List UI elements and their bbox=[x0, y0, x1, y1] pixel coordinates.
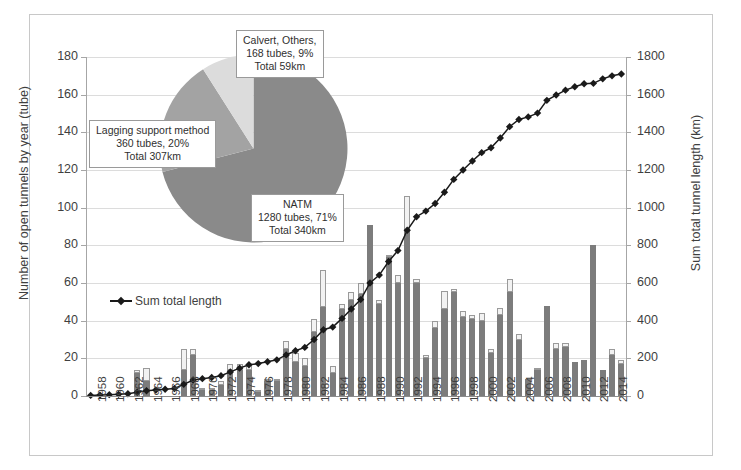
y-tick-label-right: 800 bbox=[637, 237, 671, 251]
y-tick-label-left: 40 bbox=[48, 313, 78, 327]
line-data-point bbox=[599, 75, 606, 82]
line-marker-icon bbox=[110, 296, 132, 306]
y-tick-label-left: 60 bbox=[48, 275, 78, 289]
y-tick-label-left: 160 bbox=[48, 87, 78, 101]
x-tick-label: 1968 bbox=[189, 376, 201, 402]
line-data-point bbox=[562, 86, 569, 93]
pie-callout-line: Total 307km bbox=[96, 150, 209, 163]
y-tick-label-left: 20 bbox=[48, 350, 78, 364]
x-tick-label: 1972 bbox=[226, 376, 238, 402]
y-tick-label-right: 400 bbox=[637, 313, 671, 327]
y-tick-label-right: 1200 bbox=[637, 162, 671, 176]
line-data-point bbox=[525, 113, 532, 120]
x-tick-label: 1970 bbox=[207, 376, 219, 402]
pie-callout-line: 1280 tubes, 71% bbox=[258, 211, 337, 224]
pie-callout-line: 168 tubes, 9% bbox=[243, 47, 317, 60]
y-tick-label-right: 600 bbox=[637, 275, 671, 289]
x-tick-label: 1996 bbox=[449, 376, 461, 402]
line-data-point bbox=[590, 80, 597, 87]
x-tick-label: 1986 bbox=[356, 376, 368, 402]
line-data-point bbox=[227, 368, 234, 375]
line-data-point bbox=[236, 364, 243, 371]
pie-callout-line: 360 tubes, 20% bbox=[96, 137, 209, 150]
x-tick-label: 2004 bbox=[524, 376, 536, 402]
y-tick-label-right: 0 bbox=[637, 388, 671, 402]
y-axis-right-line bbox=[626, 57, 627, 396]
x-tick-label: 2002 bbox=[505, 376, 517, 402]
pie-callout-line: Lagging support method bbox=[96, 124, 209, 137]
pie-callout-line: Total 340km bbox=[258, 224, 337, 237]
x-tick-label: 2010 bbox=[580, 376, 592, 402]
y-tick-label-left: 100 bbox=[48, 200, 78, 214]
x-tick-label: 1982 bbox=[319, 376, 331, 402]
line-data-point bbox=[618, 70, 625, 77]
chart-legend: Sum total length bbox=[110, 294, 222, 308]
y-tick-label-left: 80 bbox=[48, 237, 78, 251]
line-data-point bbox=[580, 80, 587, 87]
y-axis-left-title: Number of open tunnels by year (tube) bbox=[17, 63, 31, 323]
x-tick-label: 1964 bbox=[152, 376, 164, 402]
x-tick-label: 2008 bbox=[561, 376, 573, 402]
x-tick-label: 2000 bbox=[487, 376, 499, 402]
chart-root: Number of open tunnels by year (tube) Su… bbox=[0, 0, 741, 470]
pie-callout-natm: NATM1280 tubes, 71%Total 340km bbox=[251, 194, 344, 242]
x-tick-label: 1974 bbox=[245, 376, 257, 402]
pie-callout-line: Total 59km bbox=[243, 60, 317, 73]
pie-callout-lagging: Lagging support method360 tubes, 20%Tota… bbox=[89, 120, 216, 168]
y-tick-label-right: 1000 bbox=[637, 200, 671, 214]
line-data-point bbox=[264, 358, 271, 365]
line-data-point bbox=[255, 360, 262, 367]
y-axis-right-title: Sum total tunnel length (km) bbox=[689, 63, 703, 323]
x-tick-label: 2006 bbox=[543, 376, 555, 402]
pie-callout-calvert: Calvert, Others,168 tubes, 9%Total 59km bbox=[236, 30, 324, 78]
line-data-point bbox=[552, 91, 559, 98]
x-tick-label: 1984 bbox=[338, 376, 350, 402]
line-data-point bbox=[571, 83, 578, 90]
y-tick-label-left: 120 bbox=[48, 162, 78, 176]
y-tick-label-right: 1600 bbox=[637, 87, 671, 101]
y-tick-label-right: 1800 bbox=[637, 49, 671, 63]
legend-label-sum-total-length: Sum total length bbox=[135, 294, 222, 308]
x-tick-label: 1958 bbox=[96, 376, 108, 402]
line-data-point bbox=[292, 347, 299, 354]
x-tick-label: 1994 bbox=[431, 376, 443, 402]
line-data-point bbox=[608, 72, 615, 79]
y-tick-label-left: 140 bbox=[48, 124, 78, 138]
pie-callout-line: Calvert, Others, bbox=[243, 34, 317, 47]
pie-callout-line: NATM bbox=[258, 198, 337, 211]
x-tick-label: 1992 bbox=[412, 376, 424, 402]
x-tick-label: 1980 bbox=[300, 376, 312, 402]
x-tick-label: 1990 bbox=[394, 376, 406, 402]
x-tick-label: 1962 bbox=[133, 376, 145, 402]
y-tick-label-left: 180 bbox=[48, 49, 78, 63]
y-axis-left-line bbox=[86, 57, 87, 396]
line-data-point bbox=[273, 356, 280, 363]
x-tick-label: 2012 bbox=[598, 376, 610, 402]
x-tick-label: 1978 bbox=[282, 376, 294, 402]
x-tick-label: 1998 bbox=[468, 376, 480, 402]
y-tick-label-right: 200 bbox=[637, 350, 671, 364]
line-data-point bbox=[282, 351, 289, 358]
y-tick-label-right: 1400 bbox=[637, 124, 671, 138]
x-tick-label: 2014 bbox=[617, 376, 629, 402]
x-tick-label: 1960 bbox=[114, 376, 126, 402]
line-data-point bbox=[245, 361, 252, 368]
x-tick-label: 1988 bbox=[375, 376, 387, 402]
x-tick-label: 1976 bbox=[263, 376, 275, 402]
y-tick-label-left: 0 bbox=[48, 388, 78, 402]
x-tick-label: 1966 bbox=[170, 376, 182, 402]
